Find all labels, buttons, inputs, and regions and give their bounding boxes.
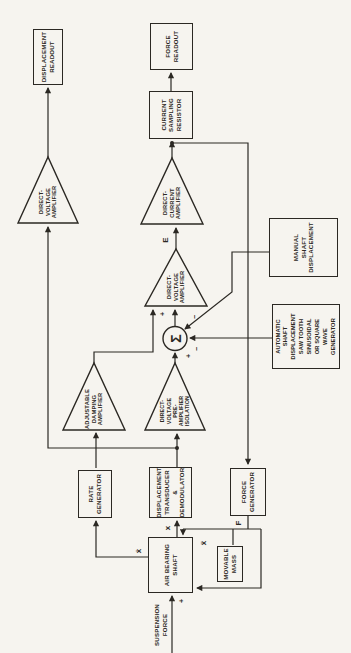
preamplifier-label: DIRECT- VOLTAGE PRE- AMPLIFIER ISOLATION (156, 386, 194, 436)
minus-sign-automatic-input: − (193, 347, 200, 351)
minus-sign-manual-input: − (191, 315, 198, 319)
plus-sign-suspension-input: + (178, 599, 185, 603)
sigma-symbol: Σ (169, 334, 183, 342)
displacement-readout-box: DISPLACEMENT READOUT (33, 29, 63, 85)
automatic-shaft-displacement-generator-box: AUTOMATIC SHAFT DISPLACEMENT SAW TOOTH S… (272, 304, 340, 369)
adjustable-damping-amplifier-label: ADJUSTABLE DAMPING AMPLIFIER (76, 382, 112, 436)
force-generator-box: FORCE GENERATOR (230, 468, 266, 516)
junction-dot-current-feedback (170, 141, 174, 145)
junction-dot-displacement-branch (175, 446, 179, 450)
scanned-diagram-page: DISPLACEMENT READOUT FORCE READOUT CURRE… (0, 0, 351, 653)
air-bearing-shaft-box: AIR BEARING SHAFT (148, 537, 193, 593)
signal-label-e: E (162, 237, 170, 242)
signal-label-x-double-dot: ẍ (200, 541, 208, 545)
signal-label-x: x (164, 526, 172, 530)
plus-sign-preamp-input: + (185, 354, 192, 358)
signal-label-x-dot: ẋ (135, 549, 143, 553)
direct-voltage-amplifier-readout-label: DIRECT- VOLTAGE AMPLIFIER (30, 175, 66, 229)
suspension-force-label: SUSPENSION FORCE (150, 599, 172, 651)
rate-generator-box: RATE GENERATOR (78, 470, 112, 518)
direct-voltage-amplifier-loop-label: DIRECT- VOLTAGE AMPLIFIER (158, 262, 194, 312)
rotated-diagram-canvas: DISPLACEMENT READOUT FORCE READOUT CURRE… (0, 0, 351, 653)
line-damping-amp-to-dv-amp (94, 310, 153, 363)
plus-sign-loop-amp-input: + (159, 312, 166, 316)
current-sampling-resistor-box: CURRENT SAMPLING RESISTOR (149, 91, 193, 139)
line-manual-to-sum (185, 252, 269, 329)
displacement-transducer-demodulator-box: DISPLACEMENT TRANSDUCER & DEMODULATOR (149, 467, 192, 518)
direct-current-amplifier-label: DIRECT- CURRENT AMPLIFIER (154, 176, 190, 230)
movable-mass-box: MOVABLE MASS (217, 546, 243, 582)
manual-shaft-displacement-box: MANUAL SHAFT DISPLACEMENT (269, 218, 338, 277)
force-readout-box: FORCE READOUT (150, 23, 193, 70)
signal-label-f: F (235, 521, 243, 526)
